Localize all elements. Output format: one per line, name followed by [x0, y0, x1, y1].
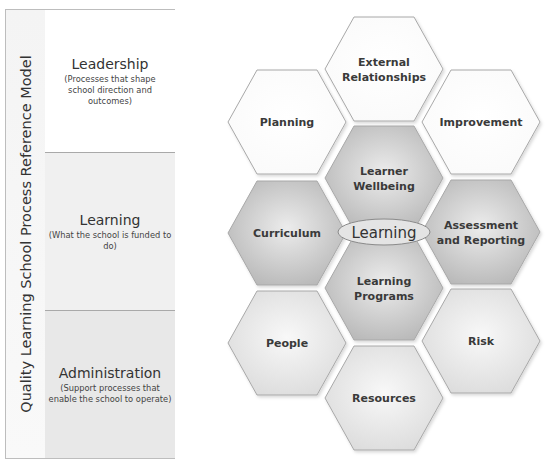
- hex-label: Planning: [260, 116, 314, 129]
- hexagon-diagram: ExternalRelationshipsPlanningImprovement…: [0, 0, 552, 469]
- hex-label: Programs: [354, 290, 414, 303]
- hexagon-shape: [325, 236, 443, 340]
- hex-learner-wellbeing: LearnerWellbeing: [325, 126, 443, 230]
- hex-risk: Risk: [422, 289, 540, 393]
- hex-resources: Resources: [325, 346, 443, 450]
- hex-label: Curriculum: [253, 227, 321, 240]
- hex-label: Learning: [357, 275, 412, 288]
- hexagon-shape: [422, 180, 540, 284]
- hex-label: Assessment: [444, 219, 518, 232]
- hexagon-shape: [325, 17, 443, 121]
- hex-learning-programs: LearningPrograms: [325, 236, 443, 340]
- hex-improvement: Improvement: [422, 70, 540, 174]
- hex-label: Resources: [352, 392, 416, 405]
- hex-planning: Planning: [228, 70, 346, 174]
- hex-people: People: [228, 291, 346, 395]
- hex-label: Learner: [360, 165, 409, 178]
- hex-assessment-and-reporting: Assessmentand Reporting: [422, 180, 540, 284]
- hex-label: People: [266, 337, 308, 350]
- hex-external-relationships: ExternalRelationships: [325, 17, 443, 121]
- hex-label: Wellbeing: [353, 180, 415, 193]
- hex-label: Relationships: [342, 71, 427, 84]
- hex-label: External: [358, 56, 410, 69]
- hex-label: Improvement: [439, 116, 522, 129]
- hex-label: Risk: [468, 335, 495, 348]
- center-label: Learning: [351, 224, 416, 242]
- hexagon-shape: [325, 126, 443, 230]
- hex-curriculum: Curriculum: [228, 181, 346, 285]
- center-learning-ellipse: Learning: [338, 219, 430, 245]
- hex-label: and Reporting: [437, 234, 525, 247]
